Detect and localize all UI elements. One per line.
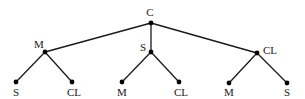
- leaf-node: [120, 80, 125, 85]
- branch-label: S: [140, 41, 146, 53]
- leaf-label: S: [284, 86, 290, 98]
- edge-n1-to-l2: [45, 52, 72, 82]
- leaf-label: CL: [174, 86, 188, 98]
- branch-label: CL: [263, 44, 277, 56]
- leaf-label: S: [13, 86, 19, 98]
- edge-n3-to-l5: [229, 53, 257, 83]
- edge-root-to-n3: [151, 23, 257, 53]
- branch-label: M: [34, 38, 44, 50]
- leaf-node: [70, 80, 75, 85]
- branch-node: [43, 50, 48, 55]
- leaf-label: CL: [67, 86, 81, 98]
- tree-diagram: CMSCLSCLMCLMS: [0, 0, 305, 99]
- leaf-label: M: [117, 86, 127, 98]
- edge-n1-to-l1: [16, 52, 45, 82]
- leaf-node: [227, 81, 232, 86]
- edge-n2-to-l4: [151, 52, 179, 82]
- root-label: C: [146, 6, 153, 18]
- edge-root-to-n1: [45, 23, 151, 52]
- leaf-label: M: [224, 86, 234, 98]
- edge-n2-to-l3: [122, 52, 151, 82]
- leaf-node: [177, 80, 182, 85]
- root-node: [149, 21, 154, 26]
- branch-node: [255, 51, 260, 56]
- leaf-node: [285, 81, 290, 86]
- branch-node: [149, 50, 154, 55]
- edge-n3-to-l6: [257, 53, 287, 83]
- leaf-node: [14, 80, 19, 85]
